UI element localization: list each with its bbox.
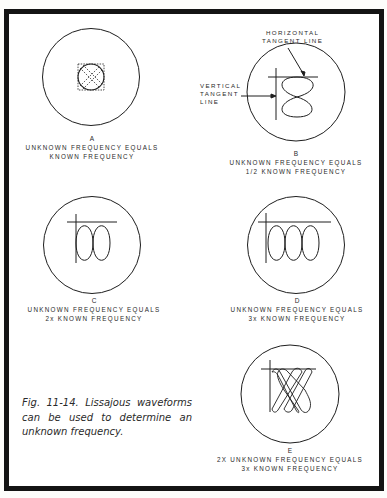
- panel-c-scope: [44, 197, 141, 294]
- panel-c-caption-line1: UNKNOWN FREQUENCY EQUALS: [14, 305, 174, 314]
- figure-caption: Fig. 11-14. Lissajous waveforms can be u…: [22, 396, 192, 440]
- panel-d-caption-line2: 3x KNOWN FREQUENCY: [217, 314, 377, 323]
- panel-b-scope: [241, 43, 345, 141]
- panel-a-letter: A: [12, 134, 172, 143]
- panel-c-caption-line2: 2x KNOWN FREQUENCY: [14, 314, 174, 323]
- panel-e-letter: E: [210, 446, 370, 455]
- panel-e-caption-line1: 2X UNKNOWN FREQUENCY EQUALS: [210, 455, 370, 464]
- panel-b-letter: B: [216, 149, 376, 158]
- vertical-tangent-line2: TANGENT: [200, 90, 241, 98]
- panel-d-caption: D UNKNOWN FREQUENCY EQUALS 3x KNOWN FREQ…: [217, 296, 377, 323]
- panel-d-scope: [248, 197, 345, 294]
- panel-a-caption-line2: KNOWN FREQUENCY: [12, 152, 172, 161]
- panel-c-letter: C: [14, 296, 174, 305]
- panel-a-caption-line1: UNKNOWN FREQUENCY EQUALS: [12, 143, 172, 152]
- panel-e-caption: E 2X UNKNOWN FREQUENCY EQUALS 3x KNOWN F…: [210, 446, 370, 473]
- vertical-tangent-label: VERTICAL TANGENT LINE: [200, 82, 241, 106]
- panel-c-caption: C UNKNOWN FREQUENCY EQUALS 2x KNOWN FREQ…: [14, 296, 174, 323]
- horizontal-tangent-line2: TANGENT LINE: [262, 37, 323, 45]
- horizontal-tangent-label: HORIZONTAL TANGENT LINE: [262, 29, 323, 45]
- panel-b-caption: B UNKNOWN FREQUENCY EQUALS 1/2 KNOWN FRE…: [216, 149, 376, 176]
- panel-e-scope: [241, 345, 339, 443]
- horizontal-tangent-line1: HORIZONTAL: [262, 29, 323, 37]
- panel-d-letter: D: [217, 296, 377, 305]
- vertical-tangent-line3: LINE: [200, 98, 241, 106]
- panel-d-caption-line1: UNKNOWN FREQUENCY EQUALS: [217, 305, 377, 314]
- vertical-tangent-line1: VERTICAL: [200, 82, 241, 90]
- panel-e-caption-line2: 3x KNOWN FREQUENCY: [210, 464, 370, 473]
- panel-b-caption-line2: 1/2 KNOWN FREQUENCY: [216, 167, 376, 176]
- panel-b-caption-line1: UNKNOWN FREQUENCY EQUALS: [216, 158, 376, 167]
- panel-a-scope: [43, 29, 140, 126]
- panel-a-caption: A UNKNOWN FREQUENCY EQUALS KNOWN FREQUEN…: [12, 134, 172, 161]
